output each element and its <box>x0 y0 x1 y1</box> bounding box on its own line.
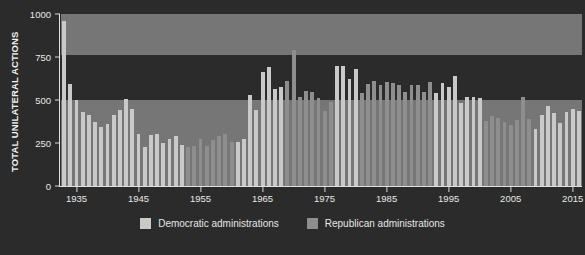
bar[interactable] <box>186 147 190 186</box>
bar[interactable] <box>348 79 352 186</box>
bar[interactable] <box>540 115 544 186</box>
bar[interactable] <box>434 93 438 186</box>
bar[interactable] <box>230 142 234 186</box>
bar[interactable] <box>174 136 178 186</box>
bar[interactable] <box>261 72 265 186</box>
bar[interactable] <box>335 66 339 186</box>
x-tick-mark <box>448 187 449 192</box>
bar[interactable] <box>304 91 308 186</box>
bar[interactable] <box>310 92 314 186</box>
legend-item-rep[interactable]: Republican administrations <box>307 218 445 229</box>
bar[interactable] <box>447 87 451 186</box>
x-tick-mark <box>262 187 263 192</box>
bar[interactable] <box>416 85 420 186</box>
bar[interactable] <box>161 143 165 186</box>
bar[interactable] <box>223 134 227 186</box>
x-tick-mark <box>138 187 139 192</box>
bar[interactable] <box>515 120 519 186</box>
bar[interactable] <box>527 119 531 186</box>
bar[interactable] <box>465 97 469 186</box>
bar[interactable] <box>534 129 538 186</box>
bar[interactable] <box>453 76 457 186</box>
bar[interactable] <box>118 110 122 186</box>
bar[interactable] <box>285 81 289 186</box>
bar[interactable] <box>428 82 432 186</box>
bar[interactable] <box>292 50 296 186</box>
bar[interactable] <box>391 83 395 186</box>
bar[interactable] <box>558 123 562 186</box>
bar[interactable] <box>279 87 283 186</box>
bar[interactable] <box>267 67 271 186</box>
bar[interactable] <box>248 95 252 186</box>
bar[interactable] <box>168 139 172 186</box>
bar[interactable] <box>143 147 147 186</box>
bar[interactable] <box>106 124 110 186</box>
bar[interactable] <box>403 92 407 186</box>
y-tick-label: 1000 <box>30 9 51 20</box>
bar[interactable] <box>130 109 134 186</box>
bar[interactable] <box>87 115 91 186</box>
bar-series <box>61 14 582 186</box>
bar[interactable] <box>298 97 302 186</box>
bar[interactable] <box>565 112 569 186</box>
bar[interactable] <box>441 83 445 186</box>
bar[interactable] <box>112 115 116 186</box>
bar[interactable] <box>354 69 358 186</box>
bar[interactable] <box>379 85 383 186</box>
bar[interactable] <box>192 146 196 186</box>
bar[interactable] <box>99 127 103 186</box>
y-tick-label: 0 <box>46 181 51 192</box>
x-tick-label: 1985 <box>376 193 397 204</box>
bar[interactable] <box>422 92 426 186</box>
bar[interactable] <box>236 142 240 186</box>
bar[interactable] <box>242 139 246 186</box>
bar[interactable] <box>397 85 401 186</box>
bar[interactable] <box>124 99 128 186</box>
bar[interactable] <box>93 122 97 186</box>
bar[interactable] <box>323 111 327 186</box>
bar[interactable] <box>149 135 153 186</box>
bar[interactable] <box>410 85 414 186</box>
legend-label: Democratic administrations <box>158 218 279 229</box>
y-axis-title: TOTAL UNILATERAL ACTIONS <box>6 14 22 189</box>
y-tick-label: 500 <box>35 95 51 106</box>
bar[interactable] <box>472 97 476 186</box>
bar[interactable] <box>385 82 389 186</box>
bar[interactable] <box>496 118 500 186</box>
x-tick-label: 1995 <box>438 193 459 204</box>
bar[interactable] <box>180 145 184 186</box>
bar[interactable] <box>62 21 66 186</box>
bar[interactable] <box>211 140 215 186</box>
bar[interactable] <box>81 112 85 186</box>
bar[interactable] <box>317 98 321 186</box>
bar[interactable] <box>254 110 258 186</box>
bar[interactable] <box>137 134 141 186</box>
bar[interactable] <box>155 134 159 186</box>
bar[interactable] <box>521 97 525 186</box>
bar[interactable] <box>478 98 482 186</box>
bar[interactable] <box>68 84 72 186</box>
bar[interactable] <box>273 89 277 186</box>
x-tick-label: 2015 <box>562 193 583 204</box>
bar[interactable] <box>329 102 333 186</box>
bar[interactable] <box>571 109 575 186</box>
x-tick-label: 1955 <box>190 193 211 204</box>
bar[interactable] <box>546 106 550 186</box>
bar[interactable] <box>490 116 494 186</box>
bar[interactable] <box>360 93 364 186</box>
bar[interactable] <box>75 100 79 186</box>
bar[interactable] <box>199 139 203 186</box>
bar[interactable] <box>509 125 513 186</box>
bar[interactable] <box>205 146 209 186</box>
bar[interactable] <box>484 121 488 186</box>
bar[interactable] <box>552 113 556 186</box>
bar[interactable] <box>503 122 507 186</box>
x-tick-label: 1945 <box>128 193 149 204</box>
bar[interactable] <box>577 111 581 186</box>
bar[interactable] <box>217 136 221 186</box>
bar[interactable] <box>372 81 376 186</box>
bar[interactable] <box>366 84 370 186</box>
legend-item-dem[interactable]: Democratic administrations <box>140 218 279 229</box>
bar[interactable] <box>459 103 463 186</box>
bar[interactable] <box>341 66 345 186</box>
